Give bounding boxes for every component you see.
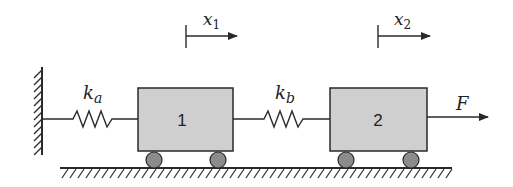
spring-a-label: ka (83, 82, 102, 106)
spring-b (233, 111, 330, 127)
wheel-icon (338, 152, 354, 168)
fixed-wall (34, 67, 42, 155)
wheel-icon (403, 152, 419, 168)
spring-a (42, 111, 138, 127)
block-1-label: 1 (177, 111, 186, 130)
spring-b-label: kb (275, 82, 295, 106)
ground (60, 168, 452, 178)
spring-mass-diagram: ka 1 kb 2 F x1 x2 (0, 0, 513, 187)
displacement-x2-label: x2 (394, 9, 411, 32)
wheel-icon (210, 152, 226, 168)
displacement-x1-label: x1 (203, 9, 220, 32)
wheel-icon (146, 152, 162, 168)
force-label: F (455, 93, 470, 114)
block-2-label: 2 (373, 111, 382, 130)
